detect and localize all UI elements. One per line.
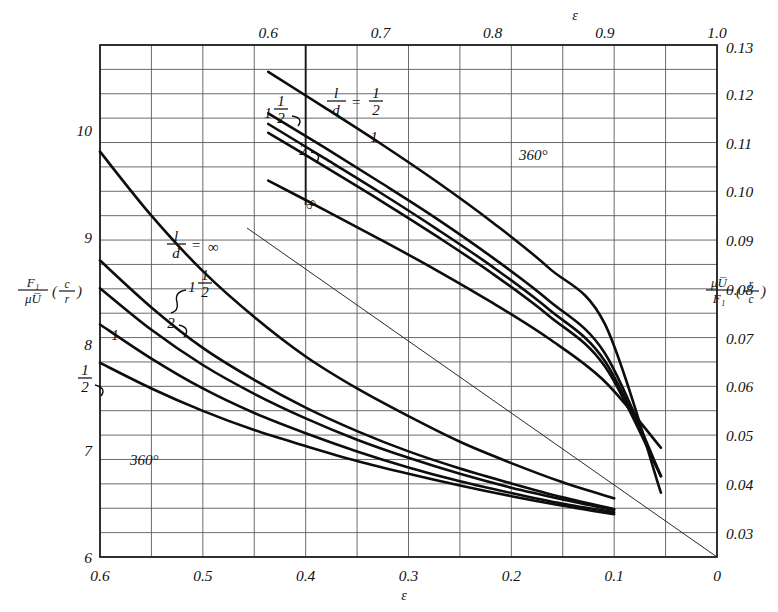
left-axis-paren-denominator: r <box>65 293 70 305</box>
lower-label-one: 1 <box>111 327 119 343</box>
left-tick-label: 6 <box>84 549 92 566</box>
lower-label-half-frac-numerator: 1 <box>81 362 89 378</box>
bottom-tick-label: 0.1 <box>604 567 623 584</box>
upper-ld-numerator: l <box>334 85 338 101</box>
upper-label-onehalf-frac-denominator: 2 <box>277 110 285 126</box>
lower-label-half-frac-denominator: 2 <box>81 379 89 395</box>
right-axis-denominator: F₁ <box>712 291 725 306</box>
lower-ld-numerator: l <box>174 228 178 244</box>
bottom-axis-epsilon-label: ε <box>401 588 407 603</box>
upper-ld-half-numerator: 1 <box>372 85 380 101</box>
chart-svg: 0.60.50.40.30.20.10 0.60.70.80.91.0 1098… <box>0 0 778 612</box>
left-tick-label: 9 <box>84 229 92 246</box>
left-tick-label: 8 <box>84 336 92 353</box>
top-tick-label: 0.7 <box>371 24 392 41</box>
figure-background <box>0 0 778 612</box>
lower-label-onehalf-frac-denominator: 2 <box>201 284 209 300</box>
lower-label-onehalf-whole: 1 <box>188 279 196 295</box>
upper-label-onehalf-whole: 1 <box>264 105 272 121</box>
right-tick-label: 0.11 <box>726 135 752 152</box>
top-axis-epsilon-label: ε <box>572 8 578 23</box>
right-tick-label: 0.10 <box>726 183 753 200</box>
bottom-tick-label: 0.4 <box>296 567 316 584</box>
lower-ld-denominator: d <box>172 245 180 261</box>
top-tick-label: 0.8 <box>483 24 503 41</box>
right-axis-numerator: μU̅ <box>710 275 729 290</box>
top-tick-label: 0.6 <box>259 24 279 41</box>
upper-label-onehalf-frac-numerator: 1 <box>277 93 285 109</box>
right-tick-label: 0.06 <box>726 378 753 395</box>
right-tick-label: 0.09 <box>726 232 753 249</box>
bottom-tick-label: 0.6 <box>90 567 110 584</box>
upper-ld-equals: = <box>351 94 361 110</box>
right-tick-label: 0.05 <box>726 427 753 444</box>
lower-label-onehalf-frac-numerator: 1 <box>201 267 209 283</box>
left-axis-numerator: F₁ <box>26 275 39 290</box>
upper-ld-half-denominator: 2 <box>372 102 380 118</box>
left-tick-label: 7 <box>84 442 93 459</box>
bottom-tick-label: 0 <box>713 567 721 584</box>
lower-region-360-degrees: 360° <box>129 452 159 468</box>
right-tick-label: 0.12 <box>726 86 753 103</box>
right-tick-label: 0.13 <box>726 39 753 56</box>
bottom-tick-label: 0.3 <box>399 567 419 584</box>
lower-label-two: 2 <box>167 315 175 331</box>
right-axis-paren-numerator: r <box>749 278 754 290</box>
right-tick-label: 0.04 <box>726 476 753 493</box>
upper-label-one: 1 <box>370 129 378 145</box>
upper-region-360-degrees: 360° <box>518 147 548 163</box>
upper-ld-denominator: d <box>332 102 340 118</box>
bottom-tick-label: 0.5 <box>193 567 213 584</box>
lower-ld-equals: = <box>191 237 201 253</box>
right-axis-paren-denominator: c <box>748 293 753 305</box>
left-axis-paren-close: ) <box>76 283 82 300</box>
right-axis-paren-close: ) <box>760 283 766 300</box>
figure-root: 0.60.50.40.30.20.10 0.60.70.80.91.0 1098… <box>0 0 778 612</box>
right-tick-label: 0.03 <box>726 525 753 542</box>
left-tick-label: 10 <box>77 122 93 139</box>
bottom-tick-label: 0.2 <box>502 567 522 584</box>
lower-ld-infinity-value: ∞ <box>208 239 219 255</box>
top-tick-label: 1.0 <box>707 24 727 41</box>
left-axis-denominator: μU̅ <box>24 291 43 306</box>
left-axis-paren-numerator: c <box>64 278 69 290</box>
right-tick-label: 0.07 <box>726 330 754 347</box>
upper-label-two: 2 <box>299 142 307 158</box>
top-tick-label: 0.9 <box>595 24 615 41</box>
